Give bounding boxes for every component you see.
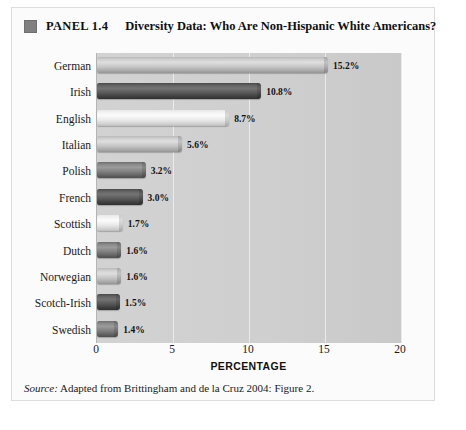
bar-value-label: 1.6% xyxy=(126,264,147,290)
category-label-irish: Irish xyxy=(70,79,91,105)
bar-row: 15.2% xyxy=(97,53,401,79)
category-label-swedish: Swedish xyxy=(52,317,91,343)
bar-dutch xyxy=(97,242,121,258)
bar-end-cap xyxy=(116,294,120,310)
bar-row: 5.6% xyxy=(97,132,401,158)
bar-end-cap xyxy=(119,215,123,231)
bar-value-label: 8.7% xyxy=(234,106,255,132)
bar-end-cap xyxy=(178,136,182,152)
category-label-polish: Polish xyxy=(62,158,91,184)
bar-value-label: 1.4% xyxy=(123,317,144,343)
x-tick-20: 20 xyxy=(394,343,406,355)
bar-row: 10.8% xyxy=(97,79,401,105)
x-tick-15: 15 xyxy=(318,343,330,355)
bar-value-label: 1.7% xyxy=(128,211,149,237)
bar-row: 1.7% xyxy=(97,211,401,237)
bar-row: 1.4% xyxy=(97,317,401,343)
source-label: Source: xyxy=(24,382,58,394)
bar-french xyxy=(97,189,143,205)
bar-value-label: 5.6% xyxy=(187,132,208,158)
bar-row: 1.6% xyxy=(97,238,401,264)
bar-value-label: 1.6% xyxy=(126,238,147,264)
bar-end-cap xyxy=(225,110,229,126)
panel-container: PANEL 1.4 Diversity Data: Who Are Non-Hi… xyxy=(11,7,435,401)
category-label-french: French xyxy=(59,185,91,211)
category-axis-labels: GermanIrishEnglishItalianPolishFrenchSco… xyxy=(12,53,91,343)
bar-norwegian xyxy=(97,268,121,284)
bar-end-cap xyxy=(117,242,121,258)
bar-row: 3.2% xyxy=(97,158,401,184)
source-text: Adapted from Brittingham and de la Cruz … xyxy=(58,382,314,394)
panel-number: PANEL 1.4 xyxy=(46,19,108,34)
bar-value-label: 1.5% xyxy=(125,290,146,316)
bar-end-cap xyxy=(257,83,261,99)
category-label-italian: Italian xyxy=(62,132,91,158)
bar-row: 3.0% xyxy=(97,185,401,211)
category-label-scotch-irish: Scotch-Irish xyxy=(35,290,91,316)
bar-row: 1.5% xyxy=(97,290,401,316)
bar-end-cap xyxy=(114,321,118,337)
page-title: Diversity Data: Who Are Non-Hispanic Whi… xyxy=(125,19,436,34)
bar-swedish xyxy=(97,321,118,337)
bar-scottish xyxy=(97,215,123,231)
x-axis-title: PERCENTAGE xyxy=(96,360,401,372)
bar-end-cap xyxy=(324,57,328,73)
bar-end-cap xyxy=(142,162,146,178)
bar-value-label: 10.8% xyxy=(266,79,292,105)
bar-italian xyxy=(97,136,182,152)
bar-row: 1.6% xyxy=(97,264,401,290)
category-label-german: German xyxy=(54,53,91,79)
plot-area: 15.2%10.8%8.7%5.6%3.2%3.0%1.7%1.6%1.6%1.… xyxy=(96,53,401,343)
bar-value-label: 15.2% xyxy=(333,53,359,79)
bar-value-label: 3.0% xyxy=(148,185,169,211)
bar-end-cap xyxy=(117,268,121,284)
category-label-dutch: Dutch xyxy=(63,238,91,264)
x-tick-0: 0 xyxy=(93,343,99,355)
chart-region: GermanIrishEnglishItalianPolishFrenchSco… xyxy=(12,44,434,402)
bar-row: 8.7% xyxy=(97,106,401,132)
bar-end-cap xyxy=(139,189,143,205)
bar-german xyxy=(97,57,328,73)
bar-english xyxy=(97,110,229,126)
bar-value-label: 3.2% xyxy=(151,158,172,184)
panel-header: PANEL 1.4 Diversity Data: Who Are Non-Hi… xyxy=(12,8,434,44)
bar-irish xyxy=(97,83,261,99)
bar-polish xyxy=(97,162,146,178)
x-tick-10: 10 xyxy=(242,343,254,355)
gridline-20 xyxy=(401,53,402,343)
bar-scotch-irish xyxy=(97,294,120,310)
square-marker-icon xyxy=(24,20,37,33)
source-note: Source: Adapted from Brittingham and de … xyxy=(24,382,314,394)
category-label-english: English xyxy=(56,106,91,132)
category-label-scottish: Scottish xyxy=(54,211,91,237)
category-label-norwegian: Norwegian xyxy=(40,264,91,290)
x-tick-5: 5 xyxy=(169,343,175,355)
